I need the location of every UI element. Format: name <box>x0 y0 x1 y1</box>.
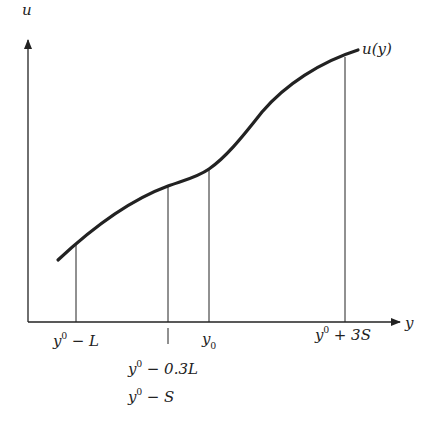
tick-label-y-sub-0: y0 <box>201 330 216 351</box>
tick-label-y0-minus-03L: y0 − 0.3L <box>127 357 198 378</box>
y-axis-label: y <box>404 314 414 332</box>
tick-label-y0-minus-S: y0 − S <box>127 385 174 406</box>
tick-label-y0-minus-L: y0 − L <box>52 329 99 350</box>
curve-u-of-y <box>58 50 358 260</box>
tick-label-y0-plus-3S: y0 + 3S <box>314 323 371 344</box>
diagram-canvas: u y u(y) y0 − L y0 y0 + 3S y0 − 0.3L y0 … <box>0 0 439 430</box>
u-axis-label: u <box>22 1 32 19</box>
curve-label: u(y) <box>362 40 392 58</box>
